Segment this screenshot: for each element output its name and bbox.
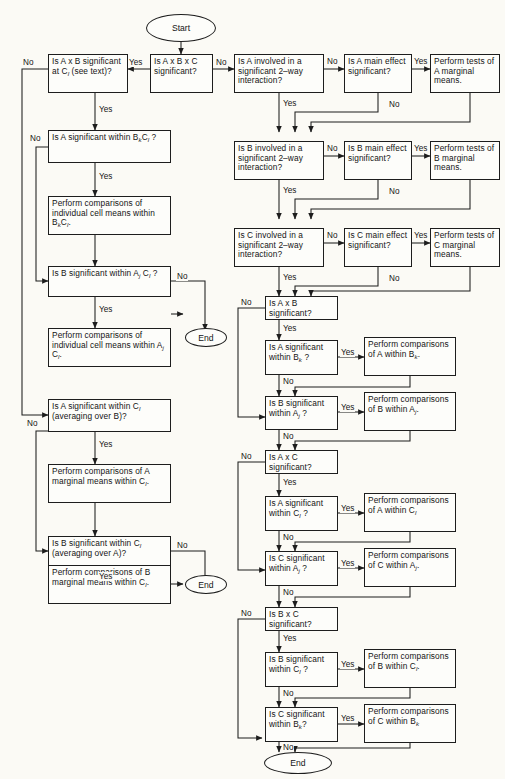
edge-label-a-bkcl-no: No xyxy=(29,134,41,143)
node-a-main-effect: Is A main effect significant? xyxy=(344,54,412,93)
edge-label-b-cl-no: No xyxy=(282,689,294,698)
node-compare-c-within-bk: Perform comparisons of C within Bk xyxy=(364,704,456,743)
edge-label-b-involved-no: No xyxy=(326,144,338,153)
edge-label-ac-sig-no: No xyxy=(240,452,252,461)
edge-label-ac-sig-yes: Yes xyxy=(282,478,297,487)
edge-label-c-aj-yes: Yes xyxy=(340,559,355,568)
node-a-marginal-tests: Perform tests of A marginal means. xyxy=(430,54,500,93)
node-bc-significant: Is B x C significant? xyxy=(265,607,338,631)
edge-label-b-cl-yes: Yes xyxy=(340,660,355,669)
node-b-marginal-tests: Perform tests of B marginal means. xyxy=(430,141,500,180)
edge-label-b-aj-no: No xyxy=(282,432,294,441)
edge-label-abc-yes: Yes xyxy=(128,58,143,67)
node-c-main-effect: Is C main effect significant? xyxy=(344,228,412,267)
edge-label-c-bk-no: No xyxy=(282,743,294,752)
edge-label-a-cl-avgb-yes: Yes xyxy=(98,440,113,449)
edge-label-a-bkcl-yes: Yes xyxy=(98,172,113,181)
node-a-within-cl: Is A significant within Cl ? xyxy=(265,496,338,531)
node-b-main-effect: Is B main effect significant? xyxy=(344,141,412,180)
edge-label-c-main-yes: Yes xyxy=(413,231,428,240)
node-compare-a-within-cl: Perform comparisons of A within Cl xyxy=(364,493,456,532)
edge-label-b-main-no: No xyxy=(388,187,400,196)
edge-label-a-main-no: No xyxy=(388,100,400,109)
edge-label-b-ajcl-no: No xyxy=(176,272,188,281)
node-b-within-ajcl: Is B significant within Aj Cl ? xyxy=(48,266,171,297)
node-compare-cells-bkcl: Perform comparisons of individual cell m… xyxy=(48,196,171,235)
edge-label-a-involved-no: No xyxy=(326,57,338,66)
edge-label-a-cl-no: No xyxy=(282,533,294,542)
edge-label-a-bk-yes: Yes xyxy=(340,348,355,357)
start-terminator: Start xyxy=(146,14,216,42)
node-b-within-aj: Is B significant within Aj ? xyxy=(265,396,338,430)
edge-label-abc-no: No xyxy=(215,58,227,67)
node-c-marginal-tests: Perform tests of C marginal means. xyxy=(430,228,500,267)
edge-label-ab-sig-yes: Yes xyxy=(282,324,297,333)
edge-label-bc-sig-no: No xyxy=(240,609,252,618)
edge-label-c-involved-yes: Yes xyxy=(282,273,297,282)
edge-label-b-aj-yes: Yes xyxy=(340,403,355,412)
edge-label-bc-sig-yes: Yes xyxy=(282,634,297,643)
node-ac-significant: Is A x C significant? xyxy=(265,450,338,474)
edge-label-b-involved-yes: Yes xyxy=(282,186,297,195)
node-b-within-cl: Is B significant within Cl ? xyxy=(265,652,338,687)
node-a-within-bkcl: Is A significant within BkCl ? xyxy=(48,130,171,163)
edge-label-a-bk-no: No xyxy=(282,377,294,386)
node-compare-a-within-bk: Perform comparisons of A within Bk. xyxy=(364,337,456,376)
edge-label-ab-at-cl-no: No xyxy=(22,58,34,67)
edge-label-b-main-yes: Yes xyxy=(413,144,428,153)
flowchart-figure: Start End End End Is A x B x C significa… xyxy=(0,0,505,779)
node-a-within-bk: Is A significant within Bk ? xyxy=(265,340,338,375)
end-terminator-bottom: End xyxy=(264,752,332,774)
node-a-involved-interaction: Is A involved in a significant 2–way int… xyxy=(234,54,324,93)
node-a-within-cl-avg-b: Is A significant within Cl (averaging ov… xyxy=(48,399,171,432)
node-ab-at-cl: Is A x B significant at Cl (see text)? xyxy=(48,54,128,93)
edge-label-ab-at-cl-yes: Yes xyxy=(98,105,113,114)
edge-label-c-aj-no: No xyxy=(282,588,294,597)
edge-label-c-bk-yes: Yes xyxy=(340,714,355,723)
node-compare-c-within-aj: Perform comparisons of C within Aj. xyxy=(364,548,456,587)
node-compare-b-marginal-cl: Perform comparisons of B marginal means … xyxy=(48,565,171,604)
edge-label-c-involved-no: No xyxy=(326,231,338,240)
edge-label-a-main-yes: Yes xyxy=(413,57,428,66)
end-terminator-left: End xyxy=(185,328,227,347)
node-ab-significant: Is A x B significant? xyxy=(265,296,338,320)
node-compare-b-within-cl: Perform comparisons of B within Cl. xyxy=(364,649,456,688)
edge-label-a-involved-yes: Yes xyxy=(282,99,297,108)
edge-label-b-ajcl-yes: Yes xyxy=(98,305,113,314)
edge-label-a-cl-avgb-no: No xyxy=(26,419,38,428)
edge-label-c-main-no: No xyxy=(388,274,400,283)
edge-label-b-cl-avga-yes: Yes xyxy=(98,572,113,581)
node-abc-significant: Is A x B x C significant? xyxy=(150,54,213,93)
edge-label-b-cl-avga-no: No xyxy=(176,541,188,550)
node-b-involved-interaction: Is B involved in a significant 2–way int… xyxy=(234,141,324,180)
node-c-involved-interaction: Is C involved in a significant 2–way int… xyxy=(234,228,324,267)
edge-label-ab-sig-no: No xyxy=(240,298,252,307)
node-compare-b-within-aj: Perform comparisons of B within Aj. xyxy=(364,392,456,431)
node-c-within-aj: Is C significant within Aj ? xyxy=(265,551,338,586)
end-terminator-mid: End xyxy=(185,575,227,594)
edge-label-a-cl-yes: Yes xyxy=(340,504,355,513)
node-c-within-bk: Is C significant within Bk? xyxy=(265,707,338,742)
node-compare-cells-ajcl: Perform comparisons of individual cell m… xyxy=(48,328,171,367)
node-compare-a-marginal-cl: Perform comparisons of A marginal means … xyxy=(48,464,171,503)
